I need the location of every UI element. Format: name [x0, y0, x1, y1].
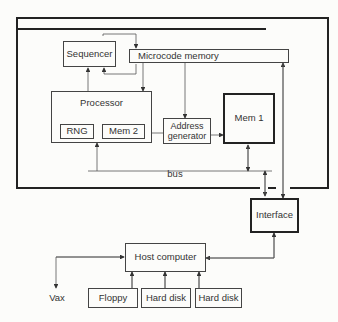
interface-label: Interface: [256, 210, 293, 221]
hard-disk-2-block: Hard disk: [195, 288, 242, 308]
rng-block: RNG: [60, 124, 94, 139]
mem1-block: Mem 1: [223, 93, 275, 144]
vax-label: Vax: [47, 292, 67, 304]
hard-disk-2-label: Hard disk: [198, 293, 238, 304]
hard-disk-1-label: Hard disk: [146, 293, 186, 304]
processor-block: Processor RNG Mem 2: [51, 91, 152, 143]
host-computer-label: Host computer: [135, 252, 197, 263]
mem2-block: Mem 2: [102, 124, 145, 139]
bus-label: bus: [163, 168, 187, 180]
mem1-label: Mem 1: [234, 113, 263, 124]
host-computer-block: Host computer: [125, 243, 206, 272]
sequencer-label: Sequencer: [67, 49, 113, 60]
hard-disk-1-block: Hard disk: [141, 288, 191, 308]
microcode-memory-label: Microcode memory: [138, 51, 219, 62]
processor-label: Processor: [52, 98, 151, 109]
microcode-memory-block: Microcode memory: [129, 49, 289, 63]
rng-label: RNG: [66, 126, 87, 137]
address-generator-label: Address generator: [165, 121, 209, 142]
floppy-label: Floppy: [99, 293, 128, 304]
sequencer-block: Sequencer: [63, 41, 116, 67]
floppy-block: Floppy: [88, 288, 138, 308]
address-generator-block: Address generator: [163, 118, 211, 144]
mem2-label: Mem 2: [109, 126, 138, 137]
interface-block: Interface: [250, 198, 299, 233]
